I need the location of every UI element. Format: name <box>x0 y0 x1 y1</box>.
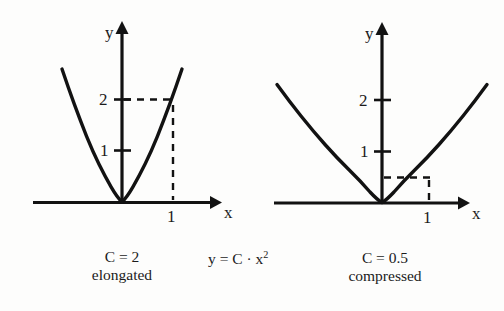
right-x-axis-arrowhead <box>458 197 470 210</box>
right-caption-descriptor: compressed <box>305 267 465 285</box>
right-x-axis-label: x <box>472 205 481 222</box>
right-y-axis-arrowhead <box>376 22 389 35</box>
right-ytick-label-2: 2 <box>359 92 368 109</box>
right-caption-coefficient: C = 0.5 <box>362 249 408 266</box>
plot-right-c05: y x 2 1 1 C = 0.5 compressed <box>0 0 504 311</box>
right-plot-caption: C = 0.5 compressed <box>305 249 465 286</box>
right-xtick-label-1: 1 <box>423 209 432 226</box>
right-ytick-label-1: 1 <box>360 143 369 160</box>
right-y-axis-label: y <box>365 25 374 42</box>
parabola-scaling-figure: y x 2 1 1 C = 2 elongated y = C · x2 <box>0 0 504 311</box>
